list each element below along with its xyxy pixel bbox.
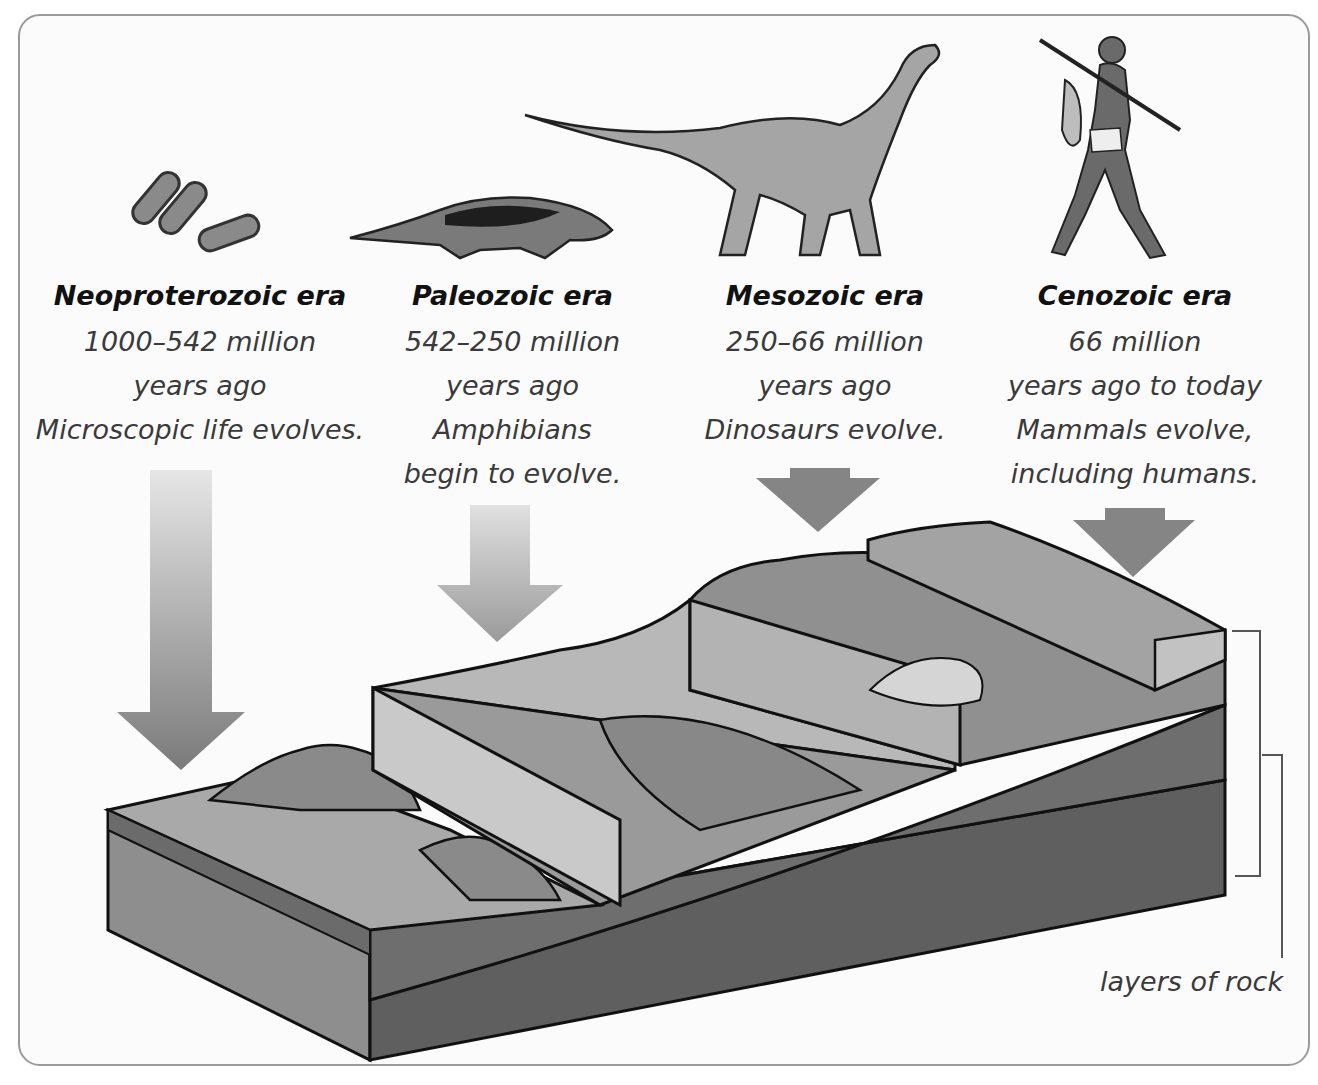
- era-range: 542–250 million: [380, 320, 645, 364]
- era-range: 250–66 million: [690, 320, 960, 364]
- arrow-neoproterozoic: [117, 470, 245, 770]
- era-description: Amphibians: [380, 408, 645, 452]
- arrow-mesozoic: [756, 468, 880, 532]
- era-cenozoic: Cenozoic era 66 million years ago to tod…: [995, 272, 1275, 496]
- era-neoproterozoic: Neoproterozoic era 1000–542 million year…: [30, 272, 370, 452]
- era-paleozoic: Paleozoic era 542–250 million years ago …: [380, 272, 645, 496]
- era-name: Neoproterozoic era: [30, 272, 370, 320]
- era-description-2: begin to evolve.: [380, 452, 645, 496]
- era-range-suffix: years ago to today: [995, 364, 1275, 408]
- layers-of-rock-label: layers of rock: [1100, 966, 1283, 997]
- era-name: Cenozoic era: [995, 272, 1275, 320]
- amphibian-icon: [350, 198, 612, 259]
- era-range-suffix: years ago: [380, 364, 645, 408]
- era-mesozoic: Mesozoic era 250–66 million years ago Di…: [690, 272, 960, 452]
- era-range: 66 million: [995, 320, 1275, 364]
- era-range-suffix: years ago: [690, 364, 960, 408]
- era-description: Mammals evolve,: [995, 408, 1275, 452]
- bacteria-icon: [128, 168, 262, 254]
- era-range: 1000–542 million: [30, 320, 370, 364]
- era-name: Paleozoic era: [380, 272, 645, 320]
- era-range-suffix: years ago: [30, 364, 370, 408]
- era-description: Dinosaurs evolve.: [690, 408, 960, 452]
- era-description: Microscopic life evolves.: [30, 408, 370, 452]
- era-name: Mesozoic era: [690, 272, 960, 320]
- human-icon: [1040, 37, 1180, 258]
- arrow-paleozoic: [437, 505, 563, 642]
- rock-layers-illustration: [0, 0, 1318, 1085]
- layers-bracket: [1232, 631, 1282, 958]
- rock-block: [108, 522, 1225, 1060]
- era-description-2: including humans.: [995, 452, 1275, 496]
